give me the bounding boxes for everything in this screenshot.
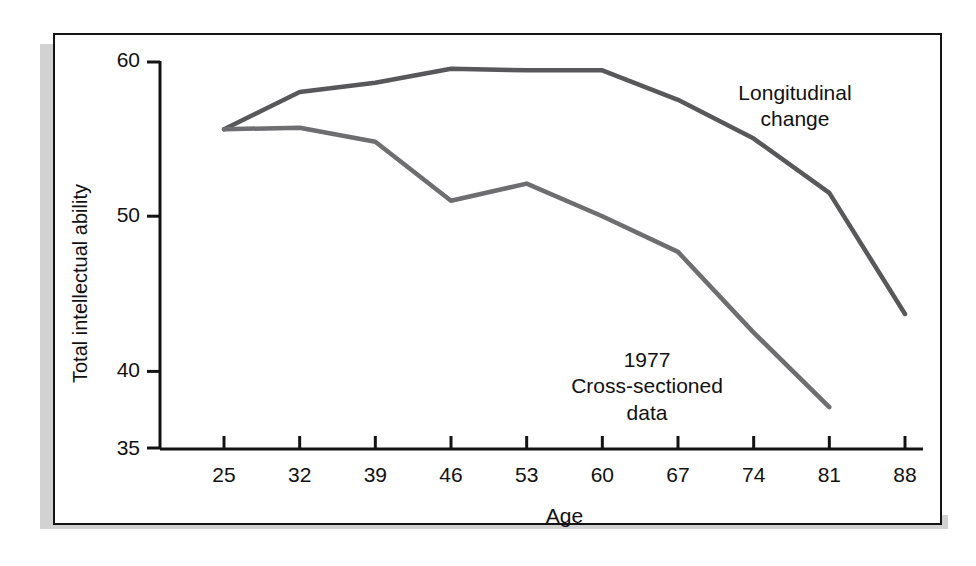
y-tick-label-40: 40 (85, 358, 140, 382)
chart-frame: 35405060 25323946536067748188 Total inte… (53, 33, 942, 525)
y-axis-title: Total intellectual ability (69, 184, 92, 383)
x-tick-label-46: 46 (421, 463, 481, 487)
x-tick-label-88: 88 (875, 463, 935, 487)
figure-root: 35405060 25323946536067748188 Total inte… (0, 0, 976, 566)
y-axis-ticks (147, 62, 160, 448)
x-tick-label-25: 25 (194, 463, 254, 487)
x-axis-title: Age (465, 504, 665, 528)
x-tick-label-81: 81 (799, 463, 859, 487)
x-tick-label-32: 32 (270, 463, 330, 487)
x-tick-label-74: 74 (724, 463, 784, 487)
longitudinal-change-label: Longitudinal change (685, 80, 905, 133)
x-tick-label-53: 53 (497, 463, 557, 487)
x-tick-label-60: 60 (572, 463, 632, 487)
y-tick-label-35: 35 (85, 436, 140, 460)
x-axis-ticks (224, 436, 905, 449)
y-tick-label-50: 50 (85, 203, 140, 227)
x-tick-label-67: 67 (648, 463, 708, 487)
y-tick-label-60: 60 (85, 48, 140, 72)
cross-sectioned-data-label: 1977 Cross-sectioned data (537, 347, 757, 426)
x-tick-label-39: 39 (345, 463, 405, 487)
frame-drop-shadow-left (40, 44, 54, 526)
